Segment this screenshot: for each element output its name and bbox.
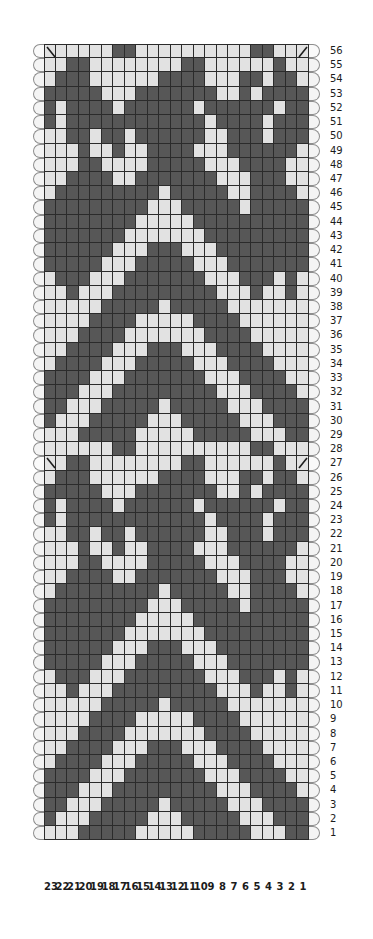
chart-cell-contrast[interactable] — [136, 527, 148, 541]
chart-cell-main[interactable] — [263, 129, 275, 143]
chart-cell-main[interactable] — [148, 613, 160, 627]
chart-cell-contrast[interactable] — [136, 812, 148, 826]
chart-row[interactable] — [44, 783, 309, 797]
chart-cell-contrast[interactable] — [297, 499, 309, 513]
chart-cell-contrast[interactable] — [148, 542, 160, 556]
chart-cell-main[interactable] — [240, 599, 252, 613]
chart-cell-main[interactable] — [240, 798, 252, 812]
chart-cell-contrast[interactable] — [102, 300, 114, 314]
chart-cell-contrast[interactable] — [297, 655, 309, 669]
chart-cell-contrast[interactable] — [171, 698, 183, 712]
chart-cell-main[interactable] — [44, 328, 56, 342]
chart-cell-contrast[interactable] — [182, 58, 194, 72]
chart-cell-contrast[interactable] — [205, 229, 217, 243]
chart-cell-main[interactable] — [44, 428, 56, 442]
chart-cell-main[interactable] — [171, 229, 183, 243]
chart-cell-main[interactable] — [182, 314, 194, 328]
chart-cell-main[interactable] — [205, 456, 217, 470]
chart-cell-main[interactable] — [205, 741, 217, 755]
chart-cell-main[interactable] — [182, 442, 194, 456]
chart-cell-contrast[interactable] — [182, 371, 194, 385]
chart-cell-contrast[interactable] — [171, 570, 183, 584]
chart-cell-contrast[interactable] — [251, 556, 263, 570]
chart-cell-main[interactable] — [240, 684, 252, 698]
chart-cell-contrast[interactable] — [171, 257, 183, 271]
chart-cell-contrast[interactable] — [159, 115, 171, 129]
chart-cell-main[interactable] — [125, 257, 137, 271]
chart-cell-contrast[interactable] — [159, 272, 171, 286]
chart-cell-main[interactable] — [125, 527, 137, 541]
chart-cell-main[interactable] — [286, 328, 298, 342]
chart-cell-contrast[interactable] — [251, 741, 263, 755]
chart-row[interactable] — [44, 72, 309, 86]
chart-cell-contrast[interactable] — [251, 584, 263, 598]
chart-cell-main[interactable] — [44, 456, 56, 470]
chart-cell-contrast[interactable] — [102, 328, 114, 342]
chart-cell-contrast[interactable] — [148, 798, 160, 812]
chart-cell-contrast[interactable] — [194, 456, 206, 470]
chart-cell-main[interactable] — [240, 456, 252, 470]
chart-cell-main[interactable] — [228, 272, 240, 286]
chart-cell-main[interactable] — [102, 158, 114, 172]
chart-cell-main[interactable] — [217, 87, 229, 101]
chart-cell-contrast[interactable] — [194, 414, 206, 428]
chart-cell-contrast[interactable] — [274, 200, 286, 214]
chart-cell-contrast[interactable] — [56, 798, 68, 812]
chart-cell-main[interactable] — [56, 414, 68, 428]
chart-grid[interactable] — [44, 44, 309, 840]
chart-cell-contrast[interactable] — [297, 215, 309, 229]
chart-cell-contrast[interactable] — [67, 655, 79, 669]
chart-cell-main[interactable] — [228, 670, 240, 684]
chart-cell-main[interactable] — [228, 158, 240, 172]
chart-cell-main[interactable] — [297, 670, 309, 684]
chart-cell-contrast[interactable] — [159, 72, 171, 86]
chart-cell-main[interactable] — [102, 670, 114, 684]
chart-cell-contrast[interactable] — [159, 144, 171, 158]
chart-cell-contrast[interactable] — [205, 599, 217, 613]
chart-cell-contrast[interactable] — [182, 399, 194, 413]
chart-cell-main[interactable] — [148, 328, 160, 342]
chart-cell-main[interactable] — [217, 58, 229, 72]
chart-cell-main[interactable] — [125, 158, 137, 172]
chart-cell-main[interactable] — [274, 499, 286, 513]
chart-cell-main[interactable] — [228, 385, 240, 399]
chart-cell-main[interactable] — [171, 826, 183, 840]
chart-cell-main[interactable] — [297, 328, 309, 342]
chart-cell-contrast[interactable] — [205, 186, 217, 200]
chart-cell-contrast[interactable] — [171, 513, 183, 527]
chart-cell-contrast[interactable] — [136, 485, 148, 499]
chart-cell-contrast[interactable] — [113, 826, 125, 840]
chart-cell-contrast[interactable] — [240, 641, 252, 655]
chart-cell-contrast[interactable] — [56, 670, 68, 684]
chart-cell-main[interactable] — [286, 44, 298, 58]
chart-cell-contrast[interactable] — [136, 798, 148, 812]
chart-cell-main[interactable] — [194, 542, 206, 556]
chart-cell-contrast[interactable] — [44, 257, 56, 271]
chart-cell-contrast[interactable] — [44, 627, 56, 641]
chart-cell-contrast[interactable] — [274, 627, 286, 641]
chart-cell-contrast[interactable] — [44, 87, 56, 101]
chart-cell-main[interactable] — [297, 186, 309, 200]
chart-cell-contrast[interactable] — [79, 328, 91, 342]
chart-cell-main[interactable] — [217, 570, 229, 584]
chart-cell-contrast[interactable] — [274, 87, 286, 101]
chart-cell-contrast[interactable] — [67, 783, 79, 797]
chart-cell-main[interactable] — [274, 670, 286, 684]
chart-cell-main[interactable] — [56, 698, 68, 712]
chart-cell-main[interactable] — [102, 442, 114, 456]
chart-cell-contrast[interactable] — [44, 485, 56, 499]
chart-cell-contrast[interactable] — [56, 755, 68, 769]
chart-cell-main[interactable] — [44, 172, 56, 186]
chart-cell-main[interactable] — [159, 727, 171, 741]
chart-cell-main[interactable] — [171, 314, 183, 328]
chart-cell-contrast[interactable] — [79, 115, 91, 129]
chart-cell-main[interactable] — [228, 172, 240, 186]
chart-cell-main[interactable] — [171, 58, 183, 72]
chart-cell-contrast[interactable] — [228, 712, 240, 726]
chart-cell-contrast[interactable] — [171, 670, 183, 684]
chart-cell-main[interactable] — [125, 144, 137, 158]
chart-cell-contrast[interactable] — [228, 129, 240, 143]
chart-cell-contrast[interactable] — [205, 385, 217, 399]
chart-cell-main[interactable] — [182, 741, 194, 755]
chart-cell-contrast[interactable] — [274, 399, 286, 413]
